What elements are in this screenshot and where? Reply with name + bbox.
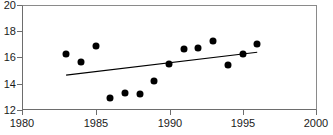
- data-point: [78, 59, 84, 65]
- data-point: [107, 95, 113, 101]
- data-point: [93, 43, 99, 49]
- data-point: [181, 46, 187, 52]
- data-point: [137, 91, 143, 97]
- data-point: [63, 51, 69, 57]
- data-point: [240, 51, 246, 57]
- data-point: [122, 90, 128, 96]
- data-point: [254, 41, 260, 47]
